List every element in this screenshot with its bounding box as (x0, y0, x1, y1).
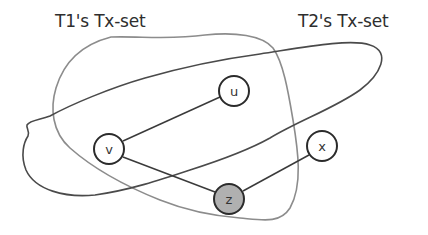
node-v-label: v (105, 142, 113, 157)
node-u-label: u (230, 84, 238, 99)
diagram-canvas: u v x z T1's Tx-set T2's Tx-set (0, 0, 428, 235)
node-z: z (214, 184, 244, 214)
edge-v-u (123, 97, 220, 141)
t2-set-label: T2's Tx-set (298, 11, 389, 31)
t1-set-label: T1's Tx-set (55, 11, 146, 31)
node-u: u (219, 76, 249, 106)
diagram-svg: u v x z (0, 0, 428, 235)
node-x: x (307, 131, 337, 161)
node-v: v (94, 134, 124, 164)
node-z-label: z (226, 192, 233, 207)
t2-set-outline (23, 43, 382, 196)
edge-z-x (243, 155, 309, 191)
t1-set-outline (53, 34, 298, 220)
node-x-label: x (318, 139, 326, 154)
